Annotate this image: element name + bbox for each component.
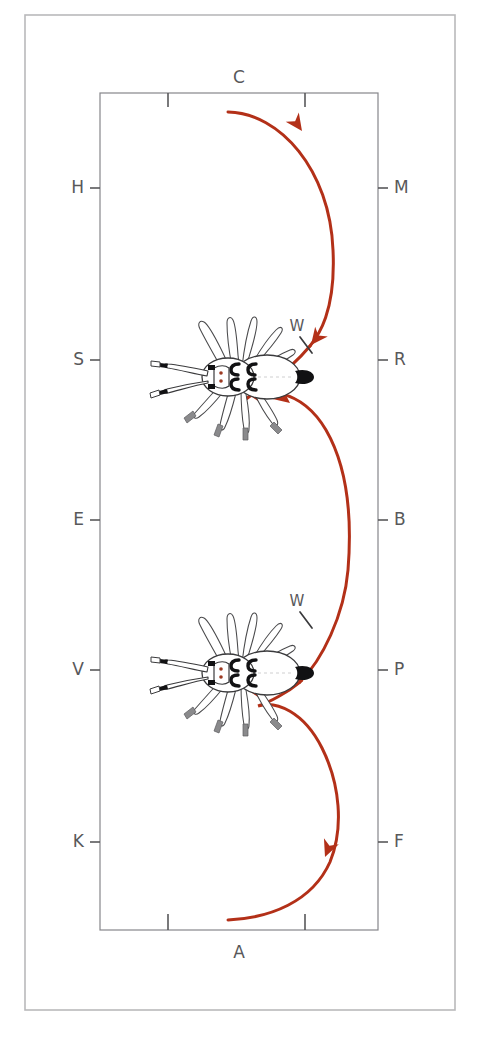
- inner-rect: [100, 93, 378, 930]
- label-right-M: M: [394, 177, 409, 197]
- label-left-S: S: [73, 349, 84, 369]
- figure-canvas: C A H S E V K M R B P F W W: [0, 0, 483, 1045]
- tick-marks: [90, 93, 388, 930]
- label-left-V: V: [72, 659, 84, 679]
- trajectory-segment-1: [228, 112, 333, 346]
- label-top-C: C: [233, 67, 245, 87]
- trajectory-path: [228, 112, 349, 920]
- label-left-K: K: [73, 831, 85, 851]
- trajectory-arrowheads: [272, 112, 339, 860]
- label-left-H: H: [71, 177, 84, 197]
- label-right-P: P: [394, 659, 404, 679]
- label-right-B: B: [394, 509, 406, 529]
- outer-frame: [25, 15, 455, 1010]
- label-bottom-A: A: [233, 942, 245, 962]
- label-right-F: F: [394, 831, 404, 851]
- diagram-svg: C A H S E V K M R B P F W W: [0, 0, 483, 1045]
- organism-1: [150, 317, 314, 440]
- label-w-2: W: [290, 592, 305, 610]
- label-w-1: W: [290, 317, 305, 335]
- label-right-R: R: [394, 349, 406, 369]
- label-left-E: E: [73, 509, 84, 529]
- organism-2: [150, 613, 314, 736]
- w-tick-2: [300, 612, 312, 628]
